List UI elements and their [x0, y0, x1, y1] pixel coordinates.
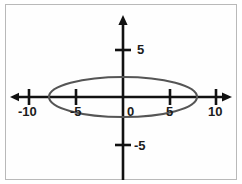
coordinate-plane-graphic [0, 0, 242, 184]
y-axis-label-pos-five: 5 [137, 43, 144, 56]
figure-root: -10 -5 0 5 10 5 -5 [0, 0, 242, 184]
x-axis-label-pos-ten: 10 [208, 105, 222, 118]
x-axis-label-neg-five: -5 [70, 105, 82, 118]
x-axis-label-origin: 0 [127, 105, 134, 118]
x-axis-label-pos-five: 5 [166, 105, 173, 118]
x-axis-right-arrow-icon [222, 92, 232, 101]
y-axis-up-arrow-icon [118, 15, 127, 25]
x-axis-label-neg-ten: -10 [18, 105, 37, 118]
y-axis-label-neg-five: -5 [134, 139, 146, 152]
x-axis-left-arrow-icon [10, 93, 19, 101]
